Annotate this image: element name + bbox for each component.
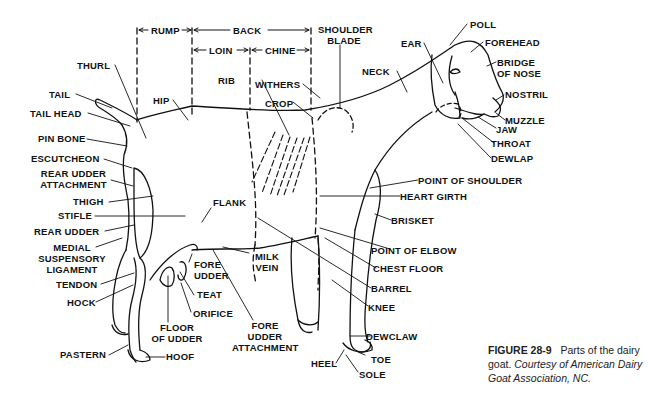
label-tendon: TENDON: [56, 279, 97, 290]
label-teat: TEAT: [197, 289, 222, 300]
label-jaw: JAW: [496, 124, 517, 135]
label-dewlap: DEWLAP: [491, 153, 533, 164]
milk-vein-line1: MILK: [250, 251, 284, 262]
label-fore-udder-attachment: FORE UDDER ATTACHMENT: [232, 320, 298, 353]
label-hip: HIP: [153, 95, 169, 106]
label-rear-udder: REAR UDDER: [34, 226, 99, 237]
label-brisket: BRISKET: [391, 215, 434, 226]
label-barrel: BARREL: [371, 283, 412, 294]
label-withers: WITHERS: [255, 79, 300, 90]
label-point-of-shoulder: POINT OF SHOULDER: [418, 175, 522, 186]
fore-udder-line2: UDDER: [194, 270, 229, 281]
msl-line2: SUSPENSORY: [36, 253, 108, 264]
figure-number: FIGURE 28-9: [488, 344, 552, 356]
rua-line2: ATTACHMENT: [36, 179, 111, 190]
label-heel: HEEL: [311, 358, 337, 369]
label-milk-vein: MILK VEIN: [250, 251, 284, 273]
label-bridge-of-nose: BRIDGE OF NOSE: [497, 57, 541, 79]
label-dewclaw: DEWCLAW: [366, 331, 418, 342]
label-forehead: FOREHEAD: [485, 37, 540, 48]
bridge-line1: BRIDGE: [497, 57, 541, 68]
msl-line3: LIGAMENT: [36, 264, 108, 275]
label-flank: FLANK: [213, 197, 246, 208]
fua-line1: FORE: [232, 320, 298, 331]
label-ear: EAR: [401, 38, 422, 49]
bridge-line2: OF NOSE: [497, 68, 541, 79]
rib-lines: [252, 132, 310, 196]
label-poll: POLL: [470, 19, 496, 30]
label-thurl: THURL: [77, 60, 110, 71]
fua-line2: UDDER: [232, 331, 298, 342]
ear-shape: [431, 55, 460, 118]
label-heart-girth: HEART GIRTH: [400, 191, 467, 202]
label-tail: TAIL: [49, 89, 70, 100]
label-sole: SOLE: [359, 369, 386, 380]
label-hock: HOCK: [67, 297, 96, 308]
region-label-shoulder-blade: SHOULDER BLADE: [318, 24, 370, 46]
label-knee: KNEE: [368, 302, 395, 313]
label-orifice: ORIFICE: [193, 308, 233, 319]
region-label-back: BACK: [233, 25, 261, 36]
floor-line2: OF UDDER: [148, 333, 206, 344]
label-rib: RIB: [218, 75, 235, 86]
label-tail-head: TAIL HEAD: [30, 108, 82, 119]
label-thigh: THIGH: [73, 196, 104, 207]
figure-credit: Courtesy of American Dairy Goat Associat…: [488, 358, 642, 384]
label-toe: TOE: [371, 354, 391, 365]
fore-udder-line1: FORE: [194, 259, 229, 270]
label-fore-udder: FORE UDDER: [194, 259, 229, 281]
label-crop: CROP: [265, 98, 293, 109]
label-pin-bone: PIN BONE: [38, 133, 86, 144]
figure-caption: FIGURE 28-9 Parts of the dairy goat. Cou…: [488, 343, 648, 385]
fua-line3: ATTACHMENT: [232, 342, 298, 353]
label-point-of-elbow: POINT OF ELBOW: [371, 245, 457, 256]
region-label-rump: RUMP: [151, 25, 180, 36]
rua-line1: REAR UDDER: [36, 168, 111, 179]
label-chest-floor: CHEST FLOOR: [373, 263, 443, 274]
shoulder-blade-line2: BLADE: [318, 35, 370, 46]
label-stifle: STIFLE: [58, 210, 92, 221]
shoulder-blade-line1: SHOULDER: [318, 24, 370, 35]
label-nostril: NOSTRIL: [505, 89, 548, 100]
label-rear-udder-attachment: REAR UDDER ATTACHMENT: [36, 168, 111, 190]
label-hoof: HOOF: [166, 351, 194, 362]
label-medial-suspensory-ligament: MEDIAL SUSPENSORY LIGAMENT: [36, 242, 108, 275]
floor-line1: FLOOR: [148, 322, 206, 333]
label-throat: THROAT: [491, 138, 531, 149]
label-pastern: PASTERN: [60, 349, 106, 360]
milk-vein-line2: VEIN: [250, 262, 284, 273]
label-neck: NECK: [362, 66, 390, 77]
label-escutcheon: ESCUTCHEON: [31, 153, 100, 164]
region-label-loin: LOIN: [209, 45, 233, 56]
region-label-chine: CHINE: [265, 45, 296, 56]
goat-parts-diagram: RUMP BACK LOIN CHINE SHOULDER BLADE THUR…: [0, 0, 648, 397]
label-floor-of-udder: FLOOR OF UDDER: [148, 322, 206, 344]
msl-line1: MEDIAL: [36, 242, 108, 253]
